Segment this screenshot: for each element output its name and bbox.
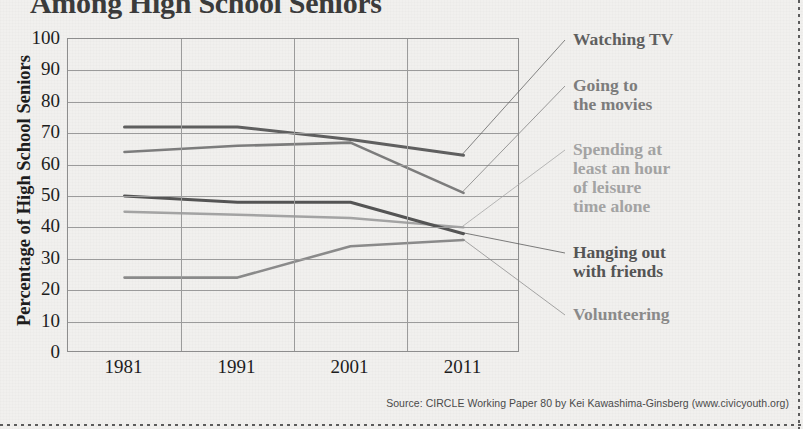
source-note: Source: CIRCLE Working Paper 80 by Kei K… (386, 397, 789, 409)
gridline-horizontal (68, 70, 518, 71)
y-axis-tick-label: 30 (20, 247, 60, 269)
plot-area (67, 38, 519, 352)
gridline-horizontal (68, 227, 518, 228)
chart-page: Among High School Seniors Percentage of … (0, 0, 803, 429)
y-axis-tick-label: 100 (20, 27, 60, 49)
panel-dotted-right-border (798, 0, 800, 429)
gridline-horizontal (68, 259, 518, 260)
gridline-vertical (181, 39, 182, 351)
legend-label: Spending at least an hour of leisure tim… (573, 140, 670, 216)
gridline-horizontal (68, 102, 518, 103)
y-axis-tick-label: 60 (20, 153, 60, 175)
gridline-horizontal (68, 196, 518, 197)
page-title: Among High School Seniors (30, 0, 382, 20)
gridline-horizontal (68, 133, 518, 134)
y-axis-tick-label: 50 (20, 184, 60, 206)
y-axis-tick-label: 0 (20, 341, 60, 363)
y-axis-tick-label: 80 (20, 90, 60, 112)
gridline-horizontal (68, 165, 518, 166)
legend-label: Watching TV (573, 30, 673, 49)
gridline-horizontal (68, 322, 518, 323)
x-axis-tick-label: 1981 (79, 356, 169, 378)
y-axis-tick-label: 20 (20, 278, 60, 300)
gridline-vertical (407, 39, 408, 351)
x-axis-tick-label: 2011 (418, 356, 508, 378)
y-axis-tick-labels: 1009080706050403020100 (16, 38, 60, 352)
x-axis-tick-labels: 1981199120012011 (67, 356, 519, 384)
panel-dotted-bottom-border (0, 424, 803, 426)
gridline-horizontal (68, 290, 518, 291)
y-axis-tick-label: 10 (20, 310, 60, 332)
legend-label: Hanging out with friends (573, 243, 666, 281)
y-axis-tick-label: 70 (20, 121, 60, 143)
legend-label: Volunteering (573, 305, 670, 324)
x-axis-tick-label: 1991 (192, 356, 282, 378)
y-axis-tick-label: 90 (20, 58, 60, 80)
x-axis-tick-label: 2001 (305, 356, 395, 378)
y-axis-tick-label: 40 (20, 215, 60, 237)
gridline-vertical (294, 39, 295, 351)
legend-label: Going to the movies (573, 76, 652, 114)
